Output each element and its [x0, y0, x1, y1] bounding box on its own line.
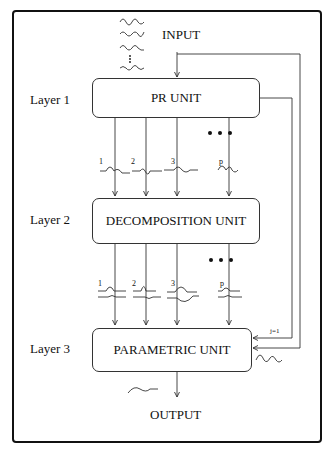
decomp-channel-p-label: p: [220, 279, 224, 288]
decomp-channel-2-label: 2: [132, 279, 136, 288]
pr-unit-label: PR UNIT: [151, 90, 201, 106]
input-label: INPUT: [162, 27, 200, 43]
layer-3-label: Layer 3: [30, 341, 70, 357]
pr-unit-box: PR UNIT: [92, 78, 260, 118]
channel-2-label: 2: [131, 157, 135, 166]
channel-3-label: 3: [171, 157, 175, 166]
output-label: OUTPUT: [150, 407, 201, 423]
decomp-channel-1-label: 1: [98, 279, 102, 288]
input-wave-3-icon: [120, 46, 144, 51]
decomposition-unit-box: DECOMPOSITION UNIT: [92, 198, 260, 244]
input-wave-2-icon: [120, 32, 144, 37]
parametric-unit-label: PARAMETRIC UNIT: [114, 342, 231, 358]
channel-p-label: p: [219, 157, 223, 166]
layer-1-label: Layer 1: [30, 92, 70, 108]
channel-1-label: 1: [99, 157, 103, 166]
feedback-label: j=1: [270, 327, 279, 335]
decomp-channel-3-label: 3: [171, 279, 175, 288]
input-wave-4-icon: [120, 66, 144, 71]
layer-2-label: Layer 2: [30, 212, 70, 228]
input-wave-1-icon: [120, 19, 144, 25]
parametric-unit-box: PARAMETRIC UNIT: [92, 328, 252, 372]
decomposition-unit-label: DECOMPOSITION UNIT: [106, 213, 246, 229]
